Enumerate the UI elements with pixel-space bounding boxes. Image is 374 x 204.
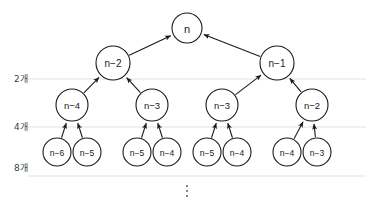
level-count-label-2: 4개 [14, 122, 28, 132]
edge-c2-b1 [142, 123, 147, 138]
node-label-r0: n [184, 23, 190, 35]
node-label-c6: n−4 [280, 148, 295, 158]
tree-node-r0[interactable]: n [172, 13, 202, 43]
edge-b0-a0 [84, 77, 99, 93]
edge-b2-a1 [236, 75, 262, 95]
node-label-c4: n−5 [200, 148, 215, 158]
tree-node-c4[interactable]: n−5 [193, 138, 221, 166]
tree-node-c1[interactable]: n−5 [73, 138, 101, 166]
vertical-ellipsis-icon [186, 185, 188, 197]
node-label-b0: n−4 [64, 100, 80, 111]
edge-c4-b2 [212, 123, 217, 138]
tree-node-c7[interactable]: n−3 [303, 138, 331, 166]
diagram-canvas: nn−2n−1n−4n−3n−3n−2n−6n−5n−5n−4n−5n−4n−4… [0, 0, 374, 204]
node-label-b1: n−3 [144, 100, 160, 111]
node-label-c2: n−5 [130, 148, 145, 158]
edge-c1-b0 [78, 123, 83, 138]
node-label-a0: n−2 [105, 58, 122, 69]
level-count-label-1: 2개 [14, 74, 28, 84]
tree-node-c3[interactable]: n−4 [153, 138, 181, 166]
node-label-c5: n−4 [230, 148, 245, 158]
edge-b3-a1 [290, 78, 301, 92]
node-label-b3: n−2 [304, 100, 320, 111]
ellipsis-dot-3 [186, 195, 188, 197]
tree-node-b0[interactable]: n−4 [56, 89, 88, 121]
edge-c3-b1 [158, 123, 163, 138]
level-count-label-3: 8개 [14, 163, 28, 173]
node-label-c1: n−5 [80, 148, 95, 158]
edge-c5-b2 [228, 123, 233, 138]
edge-c7-b3 [314, 124, 315, 137]
edge-a0-r0 [129, 36, 170, 56]
tree-node-c2[interactable]: n−5 [123, 138, 151, 166]
edge-c0-b0 [62, 123, 67, 138]
tree-node-c5[interactable]: n−4 [223, 138, 251, 166]
tree-node-a1[interactable]: n−1 [260, 46, 294, 80]
tree-node-b2[interactable]: n−3 [206, 89, 238, 121]
recursive-call-tree-diagram: nn−2n−1n−4n−3n−3n−2n−6n−5n−5n−4n−5n−4n−4… [0, 0, 374, 204]
edge-c6-b3 [294, 122, 303, 139]
edge-a1-r0 [204, 35, 260, 57]
node-label-c3: n−4 [160, 148, 175, 158]
count-labels-group: 2개4개8개 [14, 74, 28, 173]
node-label-b2: n−3 [214, 100, 230, 111]
tree-node-a0[interactable]: n−2 [96, 46, 130, 80]
tree-node-c0[interactable]: n−6 [43, 138, 71, 166]
ellipsis-dot-2 [186, 190, 188, 192]
nodes-group: nn−2n−1n−4n−3n−3n−2n−6n−5n−5n−4n−5n−4n−4… [43, 13, 331, 166]
tree-node-c6[interactable]: n−4 [273, 138, 301, 166]
node-label-a1: n−1 [269, 58, 286, 69]
node-label-c7: n−3 [310, 148, 325, 158]
edge-b1-a0 [127, 78, 141, 93]
ellipsis-dot-1 [186, 185, 188, 187]
tree-node-b3[interactable]: n−2 [296, 89, 328, 121]
tree-node-b1[interactable]: n−3 [136, 89, 168, 121]
node-label-c0: n−6 [50, 148, 65, 158]
